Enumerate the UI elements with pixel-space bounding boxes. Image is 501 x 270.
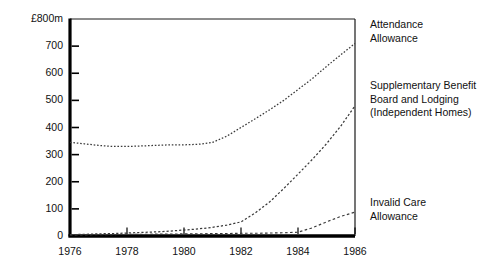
series-legend-2-line-3: (Independent Homes) — [370, 106, 476, 120]
series-line-3 — [70, 212, 355, 235]
y-axis-tick-label: 100 — [45, 202, 63, 214]
y-axis-tick-label: 500 — [45, 93, 63, 105]
series-legend-1: AttendanceAllowance — [370, 18, 423, 45]
y-axis-tick-label: 0 — [57, 229, 63, 241]
x-axis-tick-label: 1976 — [46, 245, 94, 257]
series-legend-2-line-2: Board and Lodging — [370, 93, 476, 107]
y-axis-tick-label: 300 — [45, 148, 63, 160]
series-line-2 — [70, 106, 355, 235]
series-legend-2-line-1: Supplementary Benefit — [370, 79, 476, 93]
y-axis-tick-label: 700 — [45, 39, 63, 51]
y-axis-tick-label: 200 — [45, 175, 63, 187]
x-axis-tick-label: 1982 — [217, 245, 265, 257]
x-axis-tick-label: 1986 — [331, 245, 379, 257]
y-axis-tick-label: 600 — [45, 66, 63, 78]
series-legend-3-line-1: Invalid Care — [370, 196, 426, 210]
series-line-1 — [70, 43, 355, 146]
series-legend-1-line-1: Attendance — [370, 18, 423, 32]
chart-plot-area — [0, 0, 501, 270]
series-legend-3: Invalid CareAllowance — [370, 196, 426, 223]
y-axis-tick-label: 400 — [45, 121, 63, 133]
y-axis-unit-label: £800m — [31, 12, 63, 24]
x-axis-tick-label: 1980 — [160, 245, 208, 257]
series-legend-3-line-2: Allowance — [370, 210, 426, 224]
series-legend-2: Supplementary BenefitBoard and Lodging(I… — [370, 79, 476, 120]
chart-container: £800m7006005004003002001000 197619781980… — [0, 0, 501, 270]
x-axis-tick-label: 1984 — [274, 245, 322, 257]
series-legend-1-line-2: Allowance — [370, 32, 423, 46]
x-axis-tick-label: 1978 — [103, 245, 151, 257]
